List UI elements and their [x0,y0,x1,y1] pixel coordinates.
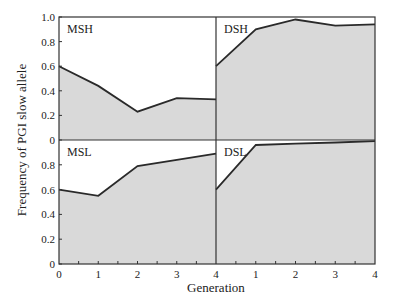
y-tick-label: 0.2 [41,233,55,245]
x-tick-label: 2 [135,268,141,280]
y-tick-label: 0.4 [41,208,55,220]
panel-dsh: DSH [216,20,375,141]
area-fill [216,20,375,141]
area-fill [59,154,216,264]
y-tick-label: 0.4 [41,85,55,97]
x-tick-label: 1 [253,268,259,280]
x-tick-label: 2 [293,268,299,280]
x-tick-label: 0 [56,268,62,280]
y-tick-label: 0.8 [41,36,55,48]
panel-label: MSL [67,145,92,159]
panel-msl: MSL [59,145,216,264]
y-tick-label: 0.8 [41,159,55,171]
y-tick-label: 1.0 [41,11,55,23]
x-tick-label: 4 [372,268,378,280]
panel-label: DSH [224,22,248,36]
x-tick-label: 3 [333,268,339,280]
y-tick-label: 0.6 [41,184,55,196]
x-tick-label: 1 [96,268,102,280]
x-tick-label: 3 [174,268,180,280]
x-axis-label: Generation [187,280,245,295]
panel-label: MSH [67,22,93,36]
panel-dsl: DSL [216,141,375,264]
pgi-allele-frequency-figure: MSHDSHMSLDSL 00.20.40.60.81.000.20.40.60… [0,0,398,308]
panels: MSHDSHMSLDSL [59,20,375,265]
y-axis-label: Frequency of PGI slow allele [14,64,29,217]
panel-msh: MSH [59,22,216,140]
x-tick-label: 4 [213,268,219,280]
y-tick-label: 0 [50,134,56,146]
y-tick-label: 0.6 [41,60,55,72]
y-tick-label: 0.2 [41,109,55,121]
area-fill [216,141,375,264]
panel-label: DSL [224,145,247,159]
y-tick-label: 0 [50,258,56,270]
